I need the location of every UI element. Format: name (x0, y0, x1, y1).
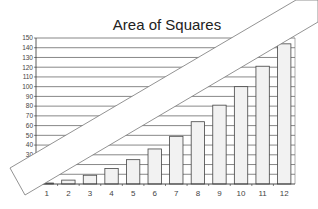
x-tick-label: 5 (131, 189, 136, 198)
x-axis: 123456789101112 (36, 184, 295, 198)
y-tick-label: 130 (22, 54, 33, 61)
x-tick-label: 1 (45, 189, 50, 198)
y-tick-label: 140 (22, 44, 33, 51)
bar (62, 180, 75, 184)
y-tick-label: 120 (22, 64, 33, 71)
x-tick-label: 7 (174, 189, 179, 198)
bar (105, 168, 118, 184)
x-tick-label: 3 (88, 189, 93, 198)
x-tick-label: 8 (196, 189, 201, 198)
y-tick-label: 70 (26, 112, 34, 119)
x-tick-label: 9 (217, 189, 222, 198)
bar (191, 122, 204, 184)
y-tick-label: 150 (22, 34, 33, 41)
bar (256, 66, 269, 184)
x-tick-label: 12 (280, 189, 289, 198)
y-tick-label: 100 (22, 83, 33, 90)
bar (234, 87, 247, 184)
y-tick-label: 80 (26, 102, 34, 109)
bar (170, 136, 183, 184)
y-tick-label: 90 (26, 93, 34, 100)
x-tick-label: 6 (152, 189, 157, 198)
x-tick-label: 4 (109, 189, 114, 198)
bar-chart: Area of Squares 304050607080901001101201… (0, 0, 318, 209)
y-tick-label: 60 (26, 122, 34, 129)
x-tick-label: 10 (237, 189, 246, 198)
bar (278, 44, 291, 184)
x-tick-label: 2 (66, 189, 71, 198)
y-tick-label: 50 (26, 132, 34, 139)
bar (213, 105, 226, 184)
x-tick-label: 11 (258, 189, 267, 198)
y-tick-label: 110 (23, 73, 34, 80)
bar (83, 175, 96, 184)
bar (126, 160, 139, 184)
chart-title: Area of Squares (113, 16, 221, 33)
bar (148, 149, 161, 184)
y-tick-label: 40 (26, 141, 34, 148)
